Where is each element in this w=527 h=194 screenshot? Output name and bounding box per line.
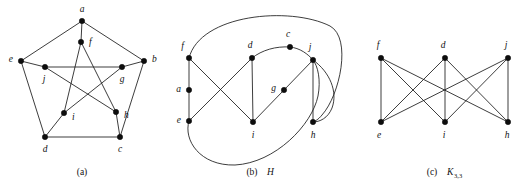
graph-edge	[253, 90, 284, 122]
vertex-d[interactable]	[249, 55, 254, 60]
vertex-label-h: h	[505, 130, 510, 140]
vertex-c[interactable]	[287, 44, 292, 49]
k33-graph: fdjeih(c)K3,3	[377, 40, 511, 179]
vertex-label-j: j	[307, 42, 312, 52]
graph-edge	[122, 61, 144, 67]
graph-edge	[81, 21, 82, 42]
vertex-g[interactable]	[119, 64, 124, 69]
graph-edge	[21, 61, 45, 137]
caption-graph-name: K	[446, 167, 454, 177]
vertex-i[interactable]	[250, 119, 255, 124]
petersen-graph: afebjgihdc(a)	[9, 4, 157, 178]
vertex-a[interactable]	[79, 18, 84, 23]
vertex-label-a: a	[80, 4, 85, 14]
vertex-label-f: f	[377, 40, 381, 50]
vertex-b[interactable]	[141, 58, 146, 63]
graph-edge	[189, 58, 253, 122]
vertex-i[interactable]	[442, 119, 447, 124]
graph-edge	[284, 60, 313, 90]
vertex-label-i: i	[443, 130, 446, 140]
caption-graph-name: H	[266, 167, 275, 177]
caption-index: (b)	[246, 167, 257, 178]
graph-edge	[64, 42, 81, 113]
panel-b-caption: (b)H	[246, 167, 275, 178]
vertex-d[interactable]	[442, 55, 447, 60]
vertex-label-d: d	[441, 40, 446, 50]
vertex-label-b: b	[152, 54, 157, 64]
graph-H-edges	[188, 16, 342, 165]
caption-graph-subscript: 3,3	[454, 172, 462, 179]
vertex-f[interactable]	[186, 55, 191, 60]
graph-edge	[120, 61, 144, 137]
vertex-label-e: e	[177, 115, 181, 125]
vertex-h[interactable]	[310, 119, 315, 124]
vertex-label-f: f	[89, 37, 93, 47]
vertex-label-d: d	[43, 144, 48, 154]
vertex-label-i: i	[252, 130, 255, 140]
vertex-d[interactable]	[42, 134, 47, 139]
vertex-h[interactable]	[505, 119, 510, 124]
vertex-label-d: d	[248, 40, 253, 50]
vertex-j[interactable]	[42, 64, 47, 69]
vertex-label-h: h	[124, 110, 129, 120]
vertex-label-g: g	[120, 74, 125, 84]
caption-index: (a)	[77, 167, 88, 178]
vertex-label-a: a	[176, 84, 181, 94]
panel-c-caption: (c)K3,3	[427, 167, 462, 179]
vertex-label-j: j	[41, 74, 46, 84]
vertex-e[interactable]	[18, 58, 23, 63]
k33-graph-edges	[381, 58, 508, 122]
vertex-label-c: c	[286, 29, 291, 39]
vertex-j[interactable]	[505, 55, 510, 60]
graph-edge	[252, 47, 290, 58]
vertex-label-e: e	[377, 130, 381, 140]
vertex-a[interactable]	[186, 87, 191, 92]
vertex-label-j: j	[503, 40, 508, 50]
vertex-f[interactable]	[78, 39, 83, 44]
vertex-e[interactable]	[186, 118, 191, 123]
vertex-g[interactable]	[281, 87, 286, 92]
vertex-label-h: h	[311, 130, 316, 140]
graphs-figure: afebjgihdc(a)faedcjgih(b)Hfdjeih(c)K3,3	[0, 0, 527, 194]
graph-edge	[21, 21, 82, 61]
graph-edge	[81, 42, 116, 112]
vertex-j[interactable]	[310, 57, 315, 62]
vertex-label-f: f	[181, 41, 185, 51]
vertex-f[interactable]	[378, 55, 383, 60]
graph-edge	[188, 60, 319, 165]
figure-container: afebjgihdc(a)faedcjgih(b)Hfdjeih(c)K3,3	[0, 0, 527, 194]
caption-index: (c)	[427, 167, 438, 178]
vertex-h[interactable]	[113, 109, 118, 114]
graph-edge	[189, 16, 342, 122]
graph-H: faedcjgih(b)H	[176, 16, 342, 178]
vertex-label-i: i	[72, 112, 75, 122]
vertex-i[interactable]	[61, 110, 66, 115]
graph-edge	[45, 67, 116, 112]
graph-edge	[116, 112, 120, 137]
graph-edge	[45, 113, 64, 137]
vertex-e[interactable]	[378, 119, 383, 124]
graph-edge	[21, 61, 45, 67]
graph-edge	[252, 58, 253, 122]
vertex-label-g: g	[271, 83, 276, 93]
vertex-label-e: e	[9, 54, 13, 64]
vertex-c[interactable]	[117, 134, 122, 139]
panel-a-caption: (a)	[77, 167, 88, 178]
vertex-label-c: c	[118, 144, 123, 154]
